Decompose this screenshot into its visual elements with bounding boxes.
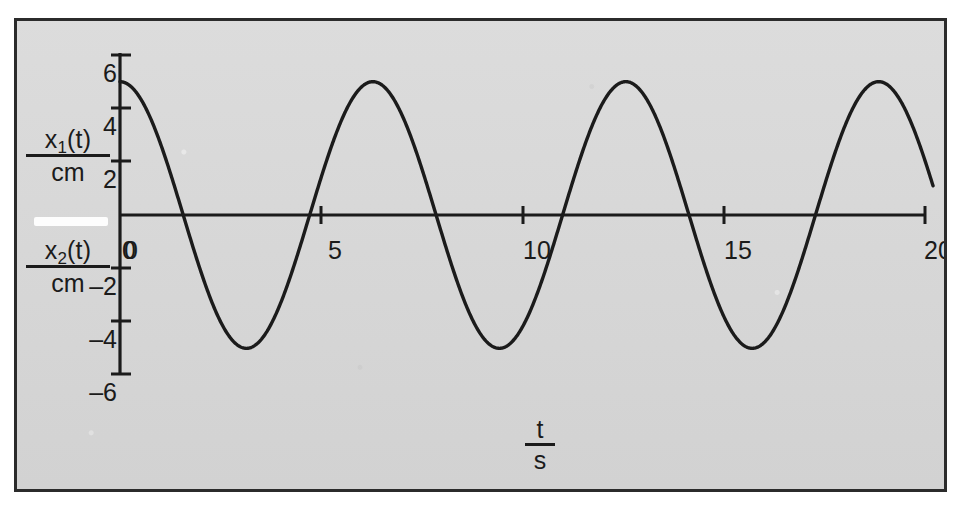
y-axis-caption-x1-denominator: cm (22, 158, 114, 186)
figure-frame: 6 4 2 0 –2 –4 –6 0 5 10 15 20 x1(t) cm x… (14, 18, 947, 492)
y-tick-value: 6 (103, 378, 117, 406)
variable-x: x (45, 125, 58, 153)
x-tick-label-20: 20 (915, 236, 947, 265)
of-t: (t) (67, 236, 91, 264)
y-axis-caption-x1-numerator: x1(t) (22, 125, 114, 153)
x-tick-label-5: 5 (315, 236, 355, 265)
of-t: (t) (67, 125, 91, 153)
y-axis-caption-x2-numerator: x2(t) (22, 236, 114, 264)
x-axis-caption-numerator: t (494, 416, 586, 442)
minus-sign: – (89, 378, 103, 406)
y-tick-value: 4 (103, 325, 117, 353)
x-tick-label-15: 15 (718, 236, 758, 265)
x-axis-caption: t s (494, 416, 586, 474)
figure-page: 6 4 2 0 –2 –4 –6 0 5 10 15 20 x1(t) cm x… (0, 0, 970, 514)
subscript-1: 1 (57, 138, 67, 157)
variable-x: x (45, 236, 58, 264)
x-axis-caption-denominator: s (494, 447, 586, 473)
fraction-bar (26, 265, 110, 268)
x-tick-label-0: 0 (124, 236, 164, 265)
x-tick-label-10: 10 (517, 236, 557, 265)
y-axis-caption-x2-denominator: cm (22, 269, 114, 297)
subscript-2: 2 (57, 249, 67, 268)
y-axis-caption-x2: x2(t) cm (22, 236, 114, 297)
y-tick-label-6: 6 (75, 59, 117, 88)
y-tick-label-neg-6: –6 (57, 378, 117, 407)
minus-sign: – (89, 325, 103, 353)
fraction-bar (26, 154, 110, 157)
y-axis-caption-x1: x1(t) cm (22, 125, 114, 186)
y-tick-label-neg-4: –4 (57, 325, 117, 354)
